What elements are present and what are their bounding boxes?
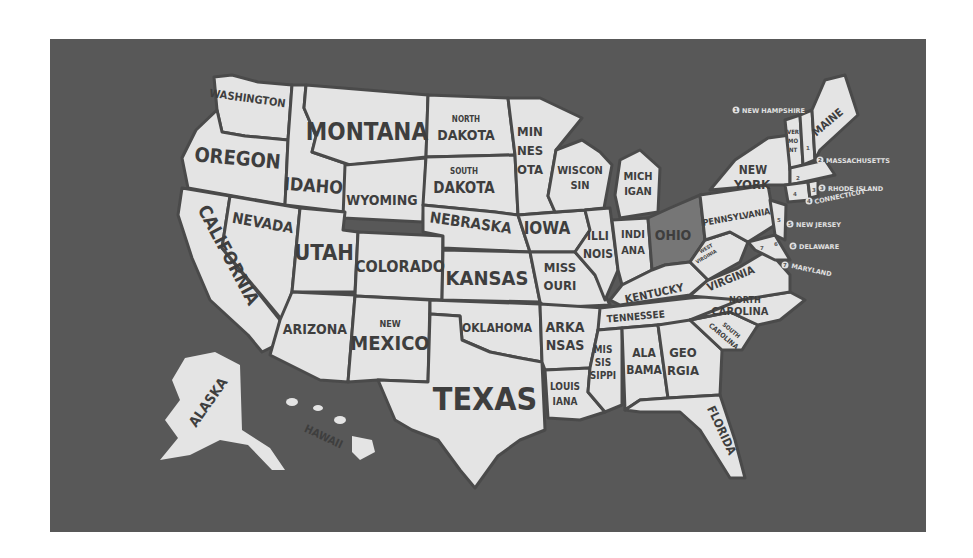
label-vermont-2: MO (788, 137, 798, 144)
state-north-dakota (426, 95, 515, 157)
label-arkansas-2: NSAS (546, 337, 584, 353)
label-michigan-1: MICH (623, 170, 652, 183)
label-new-mexico-1: NEW (379, 319, 400, 329)
label-iowa: IOWA (524, 218, 571, 238)
state-number-5: 5 (777, 217, 781, 223)
label-colorado: COLORADO (355, 257, 445, 276)
label-michigan-2: IGAN (624, 185, 652, 198)
state-number-1: 1 (806, 145, 810, 151)
label-alabama-1: ALA (632, 346, 656, 360)
label-new-york-2: YORK (733, 177, 771, 192)
svg-text:NEW JERSEY: NEW JERSEY (796, 221, 841, 229)
label-minnesota-2: NES (517, 143, 543, 158)
svg-text:DELAWARE: DELAWARE (799, 243, 839, 251)
label-mississippi-2: SIS (595, 357, 611, 368)
label-wisconsin-1: WISCON (557, 164, 603, 177)
label-oklahoma: OKLAHOMA (462, 321, 533, 335)
label-minnesota-1: MIN (517, 124, 543, 139)
label-arizona: ARIZONA (283, 321, 348, 337)
label-kansas: KANSAS (446, 266, 529, 290)
label-utah: UTAH (294, 240, 354, 265)
label-missouri-1: MISS (544, 260, 576, 275)
svg-text:3: 3 (820, 185, 824, 191)
label-louisiana-2: IANA (553, 396, 578, 407)
label-arkansas-1: ARKA (546, 319, 585, 335)
state-number-2: 2 (796, 175, 800, 181)
hawaii-island-3 (334, 416, 346, 424)
label-illinois-2: NOIS (583, 247, 613, 261)
label-illinois-1: ILLI (587, 229, 609, 243)
label-mississippi-3: SIPPI (590, 370, 616, 381)
label-idaho: IDAHO (283, 173, 344, 198)
state-number-6: 6 (774, 241, 778, 247)
label-missouri-2: OURI (544, 278, 577, 293)
svg-text:MARYLAND: MARYLAND (791, 262, 833, 278)
label-north-dakota-1: NORTH (452, 115, 480, 124)
label-indiana-1: INDI (621, 228, 645, 241)
svg-text:6: 6 (791, 243, 795, 249)
label-wisconsin-2: SIN (570, 179, 589, 192)
svg-text:NEW HAMPSHIRE: NEW HAMPSHIRE (742, 107, 805, 115)
hawaii-island-2 (313, 405, 323, 411)
state-number-7: 7 (760, 245, 764, 251)
label-louisiana-1: LOUIS (550, 381, 580, 392)
svg-text:4: 4 (807, 198, 811, 204)
svg-text:MASSACHUSETTS: MASSACHUSETTS (826, 157, 890, 165)
callout-new-hampshire: 1 NEW HAMPSHIRE (733, 107, 806, 116)
svg-text:1: 1 (734, 107, 738, 113)
state-michigan (615, 150, 660, 218)
hawaii-island-big (352, 436, 375, 460)
label-new-york-1: NEW (739, 163, 767, 177)
label-georgia-2: RGIA (667, 363, 699, 378)
callout-delaware: 6 DELAWARE (790, 243, 840, 252)
label-new-mexico-2: MEXICO (350, 331, 429, 355)
label-alabama-2: BAMA (626, 363, 662, 377)
label-north-dakota-2: DAKOTA (437, 127, 495, 143)
label-south-dakota-2: DAKOTA (433, 179, 495, 197)
label-wyoming: WYOMING (346, 192, 417, 208)
label-minnesota-3: OTA (517, 162, 543, 177)
svg-text:7: 7 (783, 262, 787, 268)
label-georgia-1: GEO (669, 345, 697, 360)
label-mississippi-1: MIS (594, 344, 613, 355)
state-number-4: 4 (793, 191, 797, 197)
us-map: WASHINGTON OREGON CALIFORNIA NEVADA IDAH… (50, 39, 926, 532)
label-vermont-3: NT (789, 146, 798, 153)
label-ohio: OHIO (655, 227, 692, 243)
label-north-carolina-2: CAROLINA (712, 305, 769, 318)
svg-text:5: 5 (788, 221, 792, 227)
label-montana: MONTANA (306, 118, 429, 146)
state-number-3: 3 (812, 187, 816, 193)
label-vermont-1: VER (787, 128, 800, 135)
label-south-dakota-1: SOUTH (450, 167, 478, 176)
hawaii-island-1 (286, 398, 298, 406)
callout-massachusetts: 2 MASSACHUSETTS (817, 157, 891, 166)
label-indiana-2: ANA (621, 244, 645, 257)
label-hawaii: HAWAII (302, 422, 345, 451)
label-texas: TEXAS (433, 380, 538, 418)
callout-new-jersey: 5 NEW JERSEY (787, 221, 842, 230)
state-alaska (160, 352, 285, 470)
map-board: WASHINGTON OREGON CALIFORNIA NEVADA IDAH… (50, 39, 926, 532)
label-north-carolina-1: NORTH (729, 295, 761, 305)
state-wyoming (343, 158, 426, 222)
svg-text:2: 2 (818, 157, 822, 163)
